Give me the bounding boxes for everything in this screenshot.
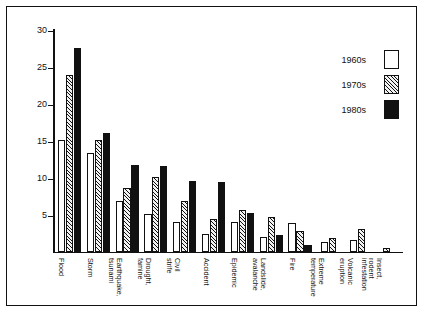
y-axis-tick-label: 10 [21,174,47,183]
x-axis-category: Landslide, avalanche [257,257,286,314]
bar-1960s-drought-famine [144,214,151,251]
x-axis-category-label: Epidemic [231,258,239,288]
y-axis-tick-label: 15 [21,137,47,146]
bar-1980s-landslide-avalanche [276,235,283,251]
bar-1970s-epidemic [239,210,246,252]
chart-legend: 1960s1970s1980s [303,47,399,122]
bar-1970s-landslide-avalanche [268,217,275,252]
bar-1980s-drought-famine [160,166,167,251]
x-axis-category: Accident [199,257,228,314]
legend-label: 1960s [303,55,366,65]
y-axis-tick-label: 30 [21,26,47,35]
bar-1970s-flood [66,75,73,252]
legend-item: 1980s [303,97,399,122]
bar-group [84,29,113,252]
x-axis-category: Flood [55,257,84,314]
y-axis-tick-label: 5 [21,211,47,220]
bar-group [113,29,142,252]
bar-1960s-extreme-temperature [321,242,328,252]
legend-item: 1960s [303,47,399,72]
y-axis-tick [48,31,53,33]
bar-1980s-epidemic [247,213,254,252]
x-axis-category-label: Extreme temperature [310,258,325,297]
x-axis-category-label: Civil strife [166,258,181,274]
bar-1970s-civil-strife [181,201,188,251]
bar-1960s-flood [58,140,65,251]
y-axis-tick [48,68,53,70]
bar-group [257,29,286,252]
legend-swatch-1980s [384,100,399,119]
legend-swatch-1970s [384,75,399,94]
bar-1980s-earthquake-tsunami [131,165,138,252]
x-axis-line [53,252,403,254]
legend-label: 1980s [303,105,366,115]
legend-label: 1970s [303,80,366,90]
bar-1960s-epidemic [231,222,238,252]
bar-group [141,29,170,252]
x-axis-category-label: Storm [87,258,95,277]
y-axis-tick [48,216,53,218]
y-axis-tick [48,105,53,107]
bar-1960s-landslide-avalanche [260,237,267,251]
legend-item: 1970s [303,72,399,97]
y-axis-tick [48,179,53,181]
x-axis-category-label: Drought, famine [137,258,152,286]
bar-1980s-storm [103,133,110,252]
bar-1970s-accident [210,219,217,252]
bar-1970s-insect-rodent-infestation [383,248,390,252]
bar-group [170,29,199,252]
bar-1970s-extreme-temperature [329,238,336,251]
x-axis-category: Civil strife [170,257,199,314]
bar-1970s-drought-famine [152,177,159,251]
bar-1970s-earthquake-tsunami [123,188,130,252]
bar-1970s-fire [296,231,303,251]
legend-swatch-1960s [384,50,399,69]
bar-1960s-volcanic-eruption [350,240,357,251]
y-axis-tick-label: 20 [21,100,47,109]
bar-1970s-volcanic-eruption [358,229,365,251]
bar-group [199,29,228,252]
bar-1970s-storm [95,140,102,251]
x-axis-category: Insect, rodent infestation [372,257,401,314]
bar-1960s-accident [202,234,209,251]
bar-1980s-civil-strife [189,181,196,251]
bar-1960s-fire [288,223,295,251]
x-axis-category-label: Flood [58,258,66,276]
x-axis-category-label: Volcanic eruption [339,258,354,285]
bar-1980s-accident [218,182,225,252]
x-axis-category-label: Earthquake, tsunami [108,258,123,297]
x-axis-category-label: Accident [202,258,210,286]
bar-1960s-earthquake-tsunami [116,201,123,251]
x-axis-category-label: Landslide, avalanche [252,258,267,291]
chart-frame: 51015202530 FloodStormEarthquake, tsunam… [6,6,417,306]
bar-1960s-storm [87,153,94,252]
x-axis-category-label: Insect, rodent infestation [360,258,383,291]
bar-1980s-fire [304,245,311,252]
bar-1980s-flood [74,48,81,252]
x-axis-category-label: Fire [288,258,296,270]
x-axis-category-labels: FloodStormEarthquake, tsunamiDrought, fa… [55,257,401,314]
y-axis-tick-label: 25 [21,63,47,72]
bar-group [55,29,84,252]
bar-1960s-civil-strife [173,222,180,252]
bar-group [228,29,257,252]
y-axis-tick [48,142,53,144]
